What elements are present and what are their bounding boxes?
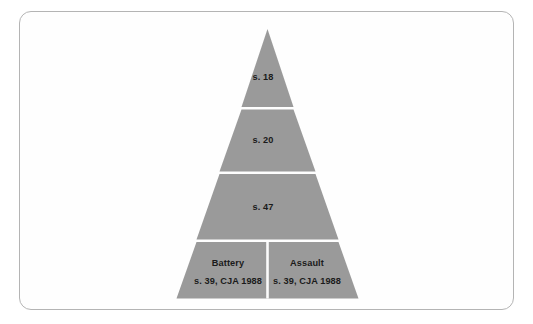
pyramid-base-left-label: Battery [212,258,245,268]
pyramid-base-right-sublabel: s. 39, CJA 1988 [273,276,341,286]
figure-frame: s. 18 s. 20 s. 47 Battery s. 39, CJA 198… [19,11,514,310]
pyramid-base-right-label: Assault [290,258,324,268]
pyramid-tier-1-label: s. 18 [253,72,274,82]
pyramid-diagram: s. 18 s. 20 s. 47 Battery s. 39, CJA 198… [20,12,515,311]
pyramid-base-left-sublabel: s. 39, CJA 1988 [194,276,262,286]
pyramid-tier-2-label: s. 20 [253,135,274,145]
pyramid-svg: s. 18 s. 20 s. 47 Battery s. 39, CJA 198… [20,12,515,311]
pyramid-tier-1-shape [242,29,294,107]
pyramid-tier-4-right-shape [268,242,359,299]
pyramid-tier-4-left-shape [177,242,268,299]
pyramid-tier-3-label: s. 47 [253,202,274,212]
